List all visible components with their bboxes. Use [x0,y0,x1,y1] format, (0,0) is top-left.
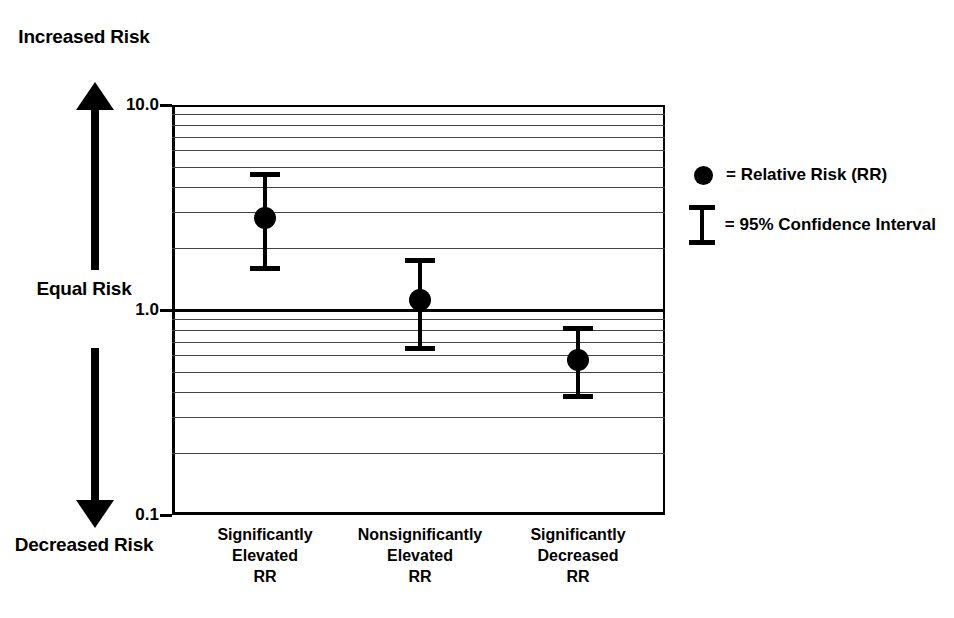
gridline-minor [172,372,665,373]
gridline-minor [172,187,665,188]
y-tick-label: 0.1 [135,505,159,525]
down-arrow-head-icon [76,500,114,528]
gridline-minor [172,392,665,393]
increased-risk-label: Increased Risk [14,26,154,48]
legend-label-confidence-interval: = 95% Confidence Interval [725,215,936,235]
x-axis-category-label: Significantly Elevated RR [180,524,350,587]
gridline-minor [172,417,665,418]
risk-direction-annotation: Increased Risk Equal Risk Decreased Risk [14,0,154,618]
gridline-minor [172,355,665,356]
legend-item-confidence-interval: = 95% Confidence Interval [686,200,936,250]
gridline-minor [172,167,665,168]
plot-area: 10.01.00.1 [172,105,665,515]
legend-item-relative-risk: = Relative Risk (RR) [686,150,936,200]
gridline-minor [172,114,665,115]
y-tick-mark [160,104,172,107]
y-tick-label: 10.0 [126,95,159,115]
gridline-minor [172,453,665,454]
relative-risk-marker[interactable] [409,289,431,311]
decreased-risk-label: Decreased Risk [14,534,154,556]
legend: = Relative Risk (RR) = 95% Confidence In… [686,150,936,250]
x-axis-category-label: Significantly Decreased RR [493,524,663,587]
legend-label-relative-risk: = Relative Risk (RR) [726,165,887,185]
equal-risk-label: Equal Risk [14,278,154,300]
down-arrow-shaft-icon [91,348,99,508]
filled-circle-icon [686,153,720,197]
confidence-interval-cap-lower [250,266,280,271]
gridline-minor [172,150,665,151]
relative-risk-marker[interactable] [567,349,589,371]
y-tick-mark [160,309,172,312]
gridline-minor [172,212,665,213]
confidence-interval-cap-upper [405,258,435,263]
up-arrow-shaft-icon [91,98,99,270]
y-tick-label: 1.0 [135,300,159,320]
confidence-interval-cap-upper [250,172,280,177]
risk-forest-plot-figure: Increased Risk Equal Risk Decreased Risk… [0,0,954,618]
x-axis-category-label: Nonsignificantly Elevated RR [335,524,505,587]
gridline-minor [172,248,665,249]
y-tick-mark [160,514,172,517]
gridline-minor [172,125,665,126]
gridline-minor [172,137,665,138]
confidence-interval-cap-lower [563,394,593,399]
error-bar-icon [686,203,719,247]
confidence-interval-cap-lower [405,346,435,351]
confidence-interval-cap-upper [563,326,593,331]
